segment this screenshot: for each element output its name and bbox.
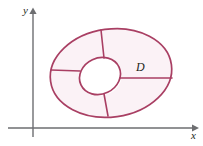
region-d-label: D bbox=[136, 61, 145, 73]
figure-container: y x D bbox=[0, 0, 203, 146]
spoke-left-line bbox=[51, 70, 80, 71]
region-d-group bbox=[44, 21, 177, 125]
x-axis-label: x bbox=[191, 130, 196, 141]
y-axis-arrowhead bbox=[29, 8, 36, 15]
y-axis-label: y bbox=[23, 5, 28, 16]
region-d-diagram bbox=[0, 0, 203, 146]
